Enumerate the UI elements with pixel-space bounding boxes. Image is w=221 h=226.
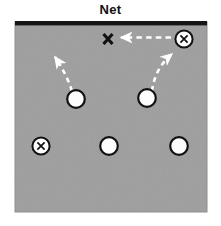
server-circled-x-marker [175,30,192,47]
back-middle-player-marker [100,137,118,155]
back-left-circled-x-marker [32,137,49,154]
court-surface [15,22,207,212]
front-right-player-marker [138,89,156,107]
court-diagram: Net [0,0,221,226]
court-graphic [0,0,221,226]
back-right-player-marker [170,137,188,155]
net-line [15,21,207,25]
front-left-player-marker [67,90,85,108]
